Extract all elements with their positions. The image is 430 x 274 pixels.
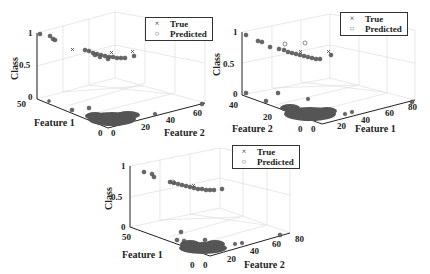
z-tick: 1 [121, 161, 126, 171]
right-tick: 20 [227, 254, 237, 264]
z-axis-label: Class [9, 57, 20, 80]
legend: ×True ○Predicted [232, 145, 300, 169]
right-tick: 60 [385, 108, 395, 118]
legend: ×True ○Predicted [340, 12, 408, 36]
right-tick: 40 [166, 115, 176, 125]
z-axis-label: Class [103, 187, 114, 210]
legend-predicted-label: Predicted [365, 24, 402, 34]
dense-cluster [85, 111, 140, 126]
legend: ×True ○Predicted [145, 17, 213, 41]
right-axis-label: Feature 2 [244, 259, 285, 270]
left-axis-label: Feature 2 [232, 123, 273, 134]
plot-panel-2: 1 0.5 0 Class 40 20 0 Feature 2 0 20 40 … [215, 0, 430, 140]
legend-true-label: True [170, 19, 188, 29]
dense-cluster [179, 240, 227, 254]
left-tick: 20 [263, 112, 273, 122]
x-marker-icon: × [345, 14, 359, 24]
right-axis-label: Feature 2 [164, 127, 205, 138]
right-tick: 0 [311, 124, 316, 134]
z-tick: 0 [28, 92, 33, 102]
x-marker-icon: × [237, 147, 251, 157]
right-tick: 0 [111, 128, 116, 138]
left-tick: 0 [298, 124, 303, 134]
z-axis-label: Class [211, 53, 222, 76]
z-tick: 0 [233, 89, 238, 99]
true-markers [71, 48, 134, 54]
circle-marker-icon: ○ [345, 24, 359, 34]
legend-true-label: True [257, 147, 275, 157]
x-marker-icon: × [150, 19, 164, 29]
left-axis-label: Feature 1 [122, 249, 163, 260]
z-tick: 1 [233, 27, 238, 37]
right-tick: 20 [337, 121, 347, 131]
left-tick: 0 [98, 128, 103, 138]
left-tick: 0 [190, 260, 195, 270]
circle-marker-icon: ○ [150, 29, 164, 39]
right-tick: 20 [141, 122, 151, 132]
right-tick: 40 [250, 246, 260, 256]
z-tick: 0 [121, 222, 126, 232]
left-tick: 50 [122, 232, 132, 242]
z-tick: 0.5 [223, 59, 235, 69]
z-tick: 0.5 [19, 60, 31, 70]
right-tick: 0 [203, 260, 208, 270]
legend-predicted-label: Predicted [170, 29, 207, 39]
predicted-markers [142, 170, 282, 246]
right-tick: 80 [295, 234, 305, 244]
right-tick: 60 [272, 239, 282, 249]
left-tick: 40 [229, 100, 239, 110]
dense-cluster [280, 104, 337, 121]
z-tick: 1 [28, 28, 33, 38]
right-tick: 60 [193, 108, 203, 118]
plot-panel-3: 1 0.5 0 Class 50 0 Feature 1 0 20 40 60 … [100, 140, 330, 260]
hollow-markers [283, 41, 307, 46]
legend-true-label: True [365, 14, 383, 24]
left-axis-label: Feature 1 [34, 117, 75, 128]
plot-panel-1: 1 0.5 0 Class 50 0 Feature 1 0 20 40 60 … [0, 0, 215, 140]
legend-predicted-label: Predicted [257, 157, 294, 167]
circle-marker-icon: ○ [237, 157, 251, 167]
left-tick: 50 [17, 99, 27, 109]
right-axis-label: Feature 1 [355, 123, 396, 134]
